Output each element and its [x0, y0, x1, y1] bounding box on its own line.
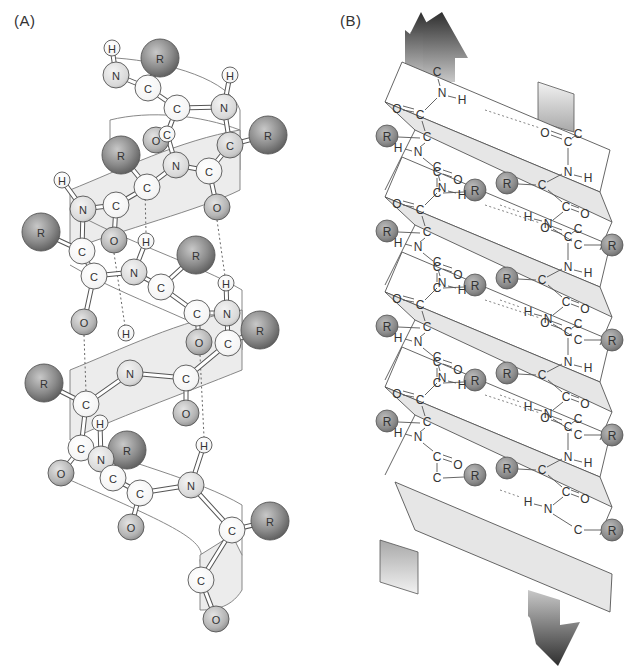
- svg-text:C: C: [433, 160, 442, 174]
- svg-text:R: R: [503, 367, 512, 381]
- svg-text:O: O: [540, 126, 549, 140]
- svg-text:O: O: [580, 492, 589, 506]
- svg-text:N: N: [438, 181, 447, 195]
- svg-text:R: R: [383, 415, 392, 429]
- svg-text:H: H: [458, 188, 467, 202]
- svg-text:O: O: [540, 316, 549, 330]
- svg-text:C: C: [416, 393, 425, 407]
- beta-sheet-diagram: CNHOCCRHNCOCROCCNHCRCOHNCRCNHOCCRHNCOCRO…: [0, 0, 643, 666]
- svg-text:R: R: [383, 130, 392, 144]
- svg-text:R: R: [383, 320, 392, 334]
- svg-text:R: R: [608, 239, 617, 253]
- svg-text:C: C: [574, 317, 583, 331]
- svg-text:N: N: [438, 86, 447, 100]
- r-group-atom: R: [464, 464, 486, 486]
- r-group-atom: R: [601, 519, 623, 541]
- svg-text:C: C: [416, 298, 425, 312]
- svg-text:N: N: [414, 430, 423, 444]
- svg-text:H: H: [524, 210, 533, 224]
- svg-text:O: O: [392, 387, 401, 401]
- svg-text:R: R: [503, 272, 512, 286]
- svg-text:H: H: [524, 305, 533, 319]
- svg-text:C: C: [433, 471, 442, 485]
- svg-text:R: R: [471, 184, 480, 198]
- svg-text:H: H: [394, 426, 403, 440]
- r-group-atom: R: [496, 267, 518, 289]
- r-group-atom: R: [601, 424, 623, 446]
- svg-text:H: H: [394, 236, 403, 250]
- svg-text:C: C: [538, 273, 547, 287]
- svg-text:R: R: [503, 462, 512, 476]
- svg-text:O: O: [580, 397, 589, 411]
- svg-text:H: H: [394, 141, 403, 155]
- svg-text:C: C: [564, 325, 573, 339]
- svg-text:C: C: [433, 350, 442, 364]
- svg-text:C: C: [423, 130, 432, 144]
- svg-text:R: R: [503, 177, 512, 191]
- svg-text:R: R: [608, 524, 617, 538]
- svg-text:N: N: [438, 371, 447, 385]
- svg-text:N: N: [414, 240, 423, 254]
- svg-text:R: R: [471, 279, 480, 293]
- svg-text:C: C: [574, 412, 583, 426]
- svg-text:H: H: [394, 331, 403, 345]
- r-group-atom: R: [464, 179, 486, 201]
- svg-text:H: H: [584, 361, 593, 375]
- svg-text:O: O: [580, 207, 589, 221]
- svg-text:R: R: [608, 429, 617, 443]
- svg-text:C: C: [574, 523, 583, 537]
- r-group-atom: R: [601, 234, 623, 256]
- svg-text:O: O: [453, 268, 462, 282]
- svg-text:C: C: [416, 203, 425, 217]
- svg-text:R: R: [471, 374, 480, 388]
- r-group-atom: R: [464, 274, 486, 296]
- svg-text:H: H: [458, 93, 467, 107]
- svg-text:N: N: [564, 355, 573, 369]
- svg-text:O: O: [540, 221, 549, 235]
- svg-text:O: O: [392, 102, 401, 116]
- svg-text:R: R: [383, 225, 392, 239]
- svg-text:C: C: [562, 485, 571, 499]
- strand-tab-bottom: [380, 540, 418, 594]
- svg-text:C: C: [574, 333, 583, 347]
- svg-text:C: C: [423, 225, 432, 239]
- r-group-atom: R: [496, 172, 518, 194]
- svg-text:N: N: [414, 145, 423, 159]
- r-group-atom: R: [496, 457, 518, 479]
- svg-text:C: C: [574, 238, 583, 252]
- svg-text:N: N: [564, 165, 573, 179]
- svg-text:C: C: [564, 420, 573, 434]
- svg-text:H: H: [584, 456, 593, 470]
- strand-direction-arrow-down-icon: [528, 590, 580, 666]
- svg-text:C: C: [416, 108, 425, 122]
- svg-text:O: O: [392, 292, 401, 306]
- svg-text:O: O: [453, 458, 462, 472]
- svg-text:H: H: [584, 171, 593, 185]
- svg-text:O: O: [540, 411, 549, 425]
- svg-text:C: C: [433, 450, 442, 464]
- svg-text:C: C: [564, 135, 573, 149]
- svg-text:C: C: [433, 65, 442, 79]
- svg-text:C: C: [423, 415, 432, 429]
- svg-text:N: N: [414, 335, 423, 349]
- svg-text:N: N: [564, 260, 573, 274]
- svg-text:C: C: [538, 463, 547, 477]
- svg-text:C: C: [562, 200, 571, 214]
- r-group-atom: R: [496, 362, 518, 384]
- svg-text:C: C: [574, 222, 583, 236]
- svg-text:R: R: [471, 469, 480, 483]
- svg-text:C: C: [538, 178, 547, 192]
- svg-text:R: R: [608, 334, 617, 348]
- svg-text:H: H: [524, 495, 533, 509]
- r-group-atom: R: [464, 369, 486, 391]
- svg-text:N: N: [544, 502, 553, 516]
- svg-text:N: N: [438, 276, 447, 290]
- svg-text:H: H: [524, 400, 533, 414]
- svg-text:H: H: [458, 283, 467, 297]
- svg-text:O: O: [453, 363, 462, 377]
- svg-text:C: C: [433, 255, 442, 269]
- svg-text:H: H: [458, 378, 467, 392]
- svg-text:C: C: [562, 295, 571, 309]
- svg-text:N: N: [564, 450, 573, 464]
- svg-text:C: C: [574, 428, 583, 442]
